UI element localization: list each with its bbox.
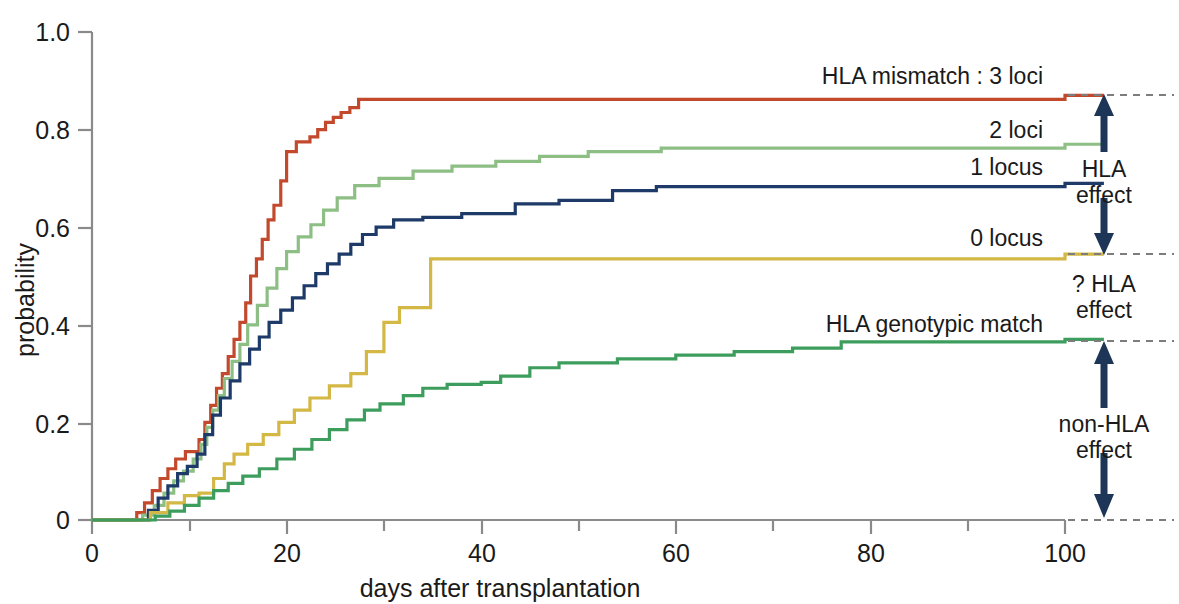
curve-label-0-locus: 0 locus — [970, 225, 1043, 251]
y-tick-label-0.4: 0.4 — [35, 312, 70, 340]
curve-label-3-loci: HLA mismatch : 3 loci — [822, 63, 1043, 89]
hla-effect-down-arrow-head — [1094, 233, 1114, 255]
curve-label-genotypic-match: HLA genotypic match — [826, 311, 1043, 337]
non-hla-effect-annotation: non-HLA effect — [1059, 341, 1150, 518]
y-axis: 1.0 0.8 0.6 0.4 0.2 0 probability — [11, 18, 92, 534]
curve-1-locus — [92, 183, 1104, 520]
hla-effect-label-line2: effect — [1076, 182, 1132, 208]
q-hla-effect-label-line2: effect — [1076, 297, 1132, 323]
y-tick-label-0.6: 0.6 — [35, 214, 70, 242]
x-axis-title: days after transplantation — [360, 574, 641, 602]
hla-effect-label-line1: HLA — [1082, 156, 1127, 182]
curve-hla-mismatch-3-loci — [92, 95, 1104, 520]
x-tick-label-60: 60 — [662, 539, 690, 567]
non-hla-effect-label-line2: effect — [1076, 437, 1132, 463]
curves-group — [92, 95, 1104, 520]
q-hla-effect-annotation: ? HLA effect — [1072, 271, 1137, 323]
hla-effect-up-arrow-head — [1094, 94, 1114, 116]
x-tick-label-40: 40 — [468, 539, 496, 567]
curve-label-1-locus: 1 locus — [970, 154, 1043, 180]
non-hla-up-arrow-head — [1094, 341, 1114, 364]
curve-labels: HLA mismatch : 3 loci 2 loci 1 locus 0 l… — [822, 63, 1043, 337]
x-tick-label-100: 100 — [1044, 539, 1086, 567]
non-hla-effect-label-line1: non-HLA — [1059, 411, 1150, 437]
x-tick-label-20: 20 — [273, 539, 301, 567]
curve-label-2-loci: 2 loci — [989, 117, 1043, 143]
x-axis: 0 20 40 60 80 100 days after transplanta… — [85, 520, 1086, 602]
y-tick-label-0: 0 — [56, 506, 70, 534]
curve-hla-genotypic-match — [92, 339, 1104, 520]
x-tick-label-0: 0 — [85, 539, 99, 567]
y-tick-label-0.8: 0.8 — [35, 116, 70, 144]
x-tick-label-80: 80 — [857, 539, 885, 567]
survival-curve-chart: 1.0 0.8 0.6 0.4 0.2 0 probability 0 20 4… — [0, 0, 1179, 604]
non-hla-down-arrow-head — [1094, 494, 1114, 518]
y-tick-label-0.2: 0.2 — [35, 410, 70, 438]
y-axis-title: probability — [11, 243, 39, 357]
y-tick-label-1.0: 1.0 — [35, 18, 70, 46]
chart-figure: 1.0 0.8 0.6 0.4 0.2 0 probability 0 20 4… — [0, 0, 1179, 604]
hla-effect-annotation: HLA effect — [1076, 94, 1132, 255]
q-hla-effect-label-line1: ? HLA — [1072, 271, 1137, 297]
